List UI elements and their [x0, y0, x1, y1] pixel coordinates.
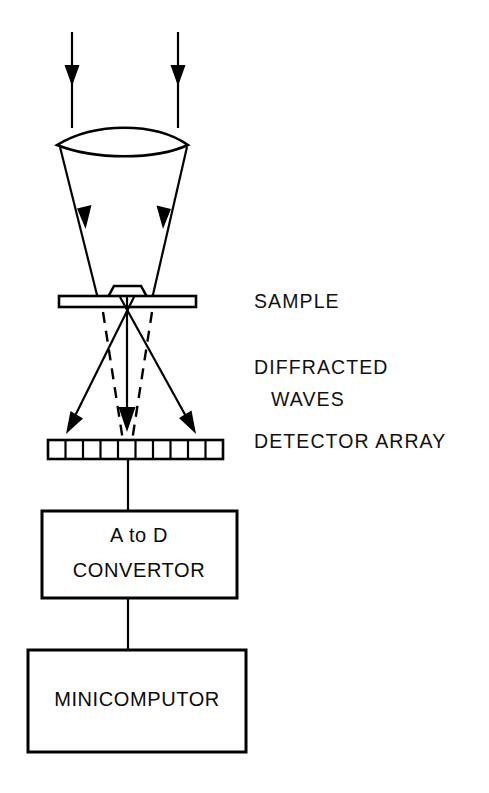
incident-ray-left	[65, 32, 80, 128]
label-waves: WAVES	[271, 388, 345, 410]
converging-lens	[57, 128, 188, 157]
schematic-canvas: A to D CONVERTOR MINICOMPUTOR SAMPLE DIF…	[0, 0, 489, 793]
diffracted-ray-dashed-left	[103, 312, 123, 441]
detector-array-group	[48, 440, 223, 459]
adc-box-label-line1: A to D	[110, 524, 168, 546]
converging-beam-group	[60, 147, 187, 299]
computer-box-label: MINICOMPUTOR	[54, 688, 220, 710]
converging-ray-right	[152, 147, 187, 299]
label-diffracted: DIFFRACTED	[254, 356, 389, 378]
incident-ray-right	[171, 32, 186, 128]
adc-box-label-line2: CONVERTOR	[73, 559, 205, 581]
adc-box-group: A to D CONVERTOR	[42, 511, 237, 598]
diffracted-ray-center	[119, 297, 136, 432]
diffracted-ray-dashed-right	[132, 312, 152, 441]
diffracted-rays-group	[66, 297, 196, 441]
label-detector-array: DETECTOR ARRAY	[254, 430, 446, 452]
label-sample: SAMPLE	[254, 290, 340, 312]
converging-ray-left	[60, 147, 98, 299]
incident-beam-group	[65, 32, 186, 128]
computer-box-group: MINICOMPUTOR	[28, 650, 246, 752]
diffraction-schematic-figure: A to D CONVERTOR MINICOMPUTOR SAMPLE DIF…	[0, 0, 489, 793]
